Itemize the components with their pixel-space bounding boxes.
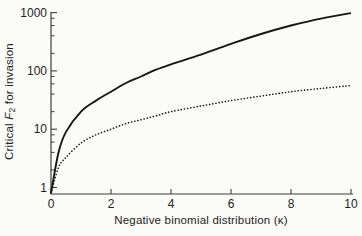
y-axis-variable-subscript: 2 (7, 108, 17, 113)
x-tick-label: 8 (288, 197, 295, 211)
x-tick-label: 4 (168, 197, 175, 211)
y-tick-label: 1000 (20, 6, 47, 20)
y-tick-label: 100 (27, 64, 47, 78)
x-tick-label: 6 (228, 197, 235, 211)
x-tick-label: 10 (344, 197, 358, 211)
plot-area: 02468101101001000 (0, 0, 362, 236)
y-axis-title-text: Critical (3, 120, 15, 160)
y-axis-title-suffix: for invasion (3, 43, 15, 108)
chart-figure: 02468101101001000 Critical F2 for invasi… (0, 0, 362, 236)
x-tick-label: 0 (48, 197, 55, 211)
y-tick-label: 1 (40, 181, 47, 195)
x-tick-label: 2 (108, 197, 115, 211)
y-axis-variable: F (3, 113, 15, 120)
upper-solid-curve (51, 13, 351, 193)
y-axis-title: Critical F2 for invasion (3, 2, 18, 202)
y-tick-label: 10 (34, 122, 48, 136)
x-axis-title: Negative binomial distribution (κ) (51, 214, 351, 226)
